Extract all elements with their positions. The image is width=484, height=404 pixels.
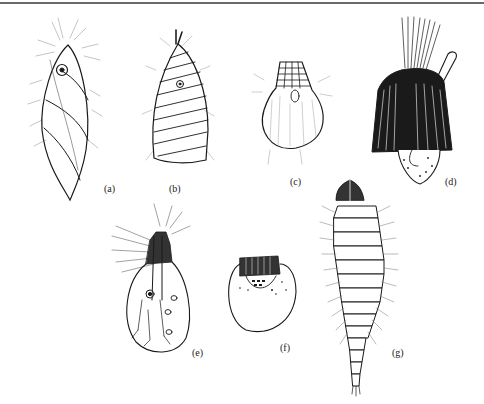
panel-label-a: (a) [104, 183, 115, 194]
panel-b-drawing [142, 30, 214, 163]
panel-label-e: (e) [192, 347, 203, 358]
panel-e-drawing [112, 204, 190, 352]
figure-illustrations [0, 0, 484, 404]
panel-label-f: (f) [280, 342, 290, 353]
panel-label-b: (b) [169, 183, 181, 194]
panel-f-drawing [229, 256, 296, 331]
panel-label-c: (c) [290, 176, 301, 187]
panel-label-g: (g) [392, 347, 404, 358]
panel-g-drawing [320, 180, 398, 396]
panel-c-drawing [252, 62, 332, 164]
panel-a-drawing [28, 18, 102, 200]
panel-label-d: (d) [445, 176, 457, 187]
panel-d-drawing [372, 17, 456, 184]
